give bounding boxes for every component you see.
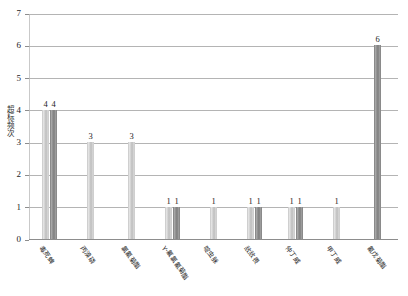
- gridline: [29, 78, 398, 79]
- bar[interactable]: 1: [210, 207, 217, 239]
- y-tick-mark: [25, 46, 29, 47]
- bar[interactable]: 4: [50, 110, 57, 239]
- bar-value-label: 1: [211, 196, 215, 206]
- bar-group: 1: [193, 207, 234, 239]
- bar-value-label: 1: [297, 196, 301, 206]
- bar-group: 11: [275, 207, 316, 239]
- plot-area: 012345674433111111116: [29, 14, 398, 240]
- bar[interactable]: 4: [42, 110, 49, 239]
- bar-group: 6: [357, 45, 398, 239]
- bar[interactable]: 1: [296, 207, 303, 239]
- y-tick-label: 2: [3, 169, 21, 179]
- bar-value-label: 3: [88, 131, 92, 141]
- y-tick-label: 4: [3, 105, 21, 115]
- y-tick-label: 3: [3, 137, 21, 147]
- y-tick-label: 5: [3, 73, 21, 83]
- x-axis-labels: 毒死蜱丙溴磷氯氰菊酯γ-氟氯氰菊酯啶虫脒敌敌畏仲丁威甲丁威氰戊菊酯: [29, 241, 398, 296]
- bar-value-label: 1: [334, 196, 338, 206]
- x-axis-label: 毒死蜱: [37, 243, 57, 265]
- bar-value-label: 1: [289, 196, 293, 206]
- bar[interactable]: 1: [288, 207, 295, 239]
- x-axis-line: [29, 239, 398, 240]
- bar-value-label: 1: [166, 196, 170, 206]
- y-tick-mark: [25, 14, 29, 15]
- bar-value-label: 1: [248, 196, 252, 206]
- x-axis-label: 氯氰菊酯: [119, 243, 143, 271]
- bar-group: 3: [111, 142, 152, 239]
- x-axis-label: 甲丁威: [324, 243, 344, 265]
- gridline: [29, 14, 398, 15]
- y-tick-label: 7: [3, 8, 21, 18]
- bar[interactable]: 6: [374, 45, 381, 239]
- bar-group: 3: [70, 142, 111, 239]
- y-tick-label: 6: [3, 40, 21, 50]
- gridline: [29, 46, 398, 47]
- gridline: [29, 110, 398, 111]
- x-axis-label: 丙溴磷: [78, 243, 98, 265]
- bar-group: 1: [316, 207, 357, 239]
- bar-value-label: 4: [43, 99, 47, 109]
- y-tick-label: 0: [3, 234, 21, 244]
- x-axis-label: 仲丁威: [283, 243, 303, 265]
- bar-value-label: 1: [174, 196, 178, 206]
- bar-group: 11: [152, 207, 193, 239]
- y-tick-mark: [25, 78, 29, 79]
- bar-chart: 超标频次 012345674433111111116 毒死蜱丙溴磷氯氰菊酯γ-氟…: [0, 0, 408, 296]
- bar[interactable]: 1: [173, 207, 180, 239]
- bar-value-label: 3: [129, 131, 133, 141]
- bar[interactable]: 1: [255, 207, 262, 239]
- bar-group: 44: [29, 110, 70, 239]
- bar-group: 11: [234, 207, 275, 239]
- x-axis-label: 氰戊菊酯: [365, 243, 389, 271]
- bar[interactable]: 1: [247, 207, 254, 239]
- bar[interactable]: 1: [165, 207, 172, 239]
- bar-value-label: 6: [375, 34, 379, 44]
- bar[interactable]: 3: [87, 142, 94, 239]
- bar-value-label: 4: [51, 99, 55, 109]
- x-axis-label: 啶虫脒: [201, 243, 221, 265]
- bar[interactable]: 3: [128, 142, 135, 239]
- x-axis-label: 敌敌畏: [242, 243, 262, 265]
- x-axis-label: γ-氟氯氰菊酯: [160, 243, 191, 281]
- bar-value-label: 1: [256, 196, 260, 206]
- y-tick-label: 1: [3, 202, 21, 212]
- bar[interactable]: 1: [333, 207, 340, 239]
